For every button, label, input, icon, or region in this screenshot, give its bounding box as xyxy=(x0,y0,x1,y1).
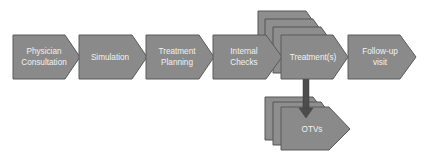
step-label: Simulation xyxy=(91,53,130,62)
step-label-line1: Internal xyxy=(230,47,257,56)
step-label-line2: Checks xyxy=(230,58,257,67)
step-simulation: Simulation xyxy=(79,35,147,79)
process-flow-diagram: Physician Consultation Simulation Treatm… xyxy=(0,0,428,166)
step-label-line2: Consultation xyxy=(21,58,67,67)
step-physician-consultation: Physician Consultation xyxy=(13,35,80,79)
step-follow-up-visit: Follow-up visit xyxy=(348,35,416,79)
step-label: Treatment(s) xyxy=(290,53,337,62)
step-label-line1: Physician xyxy=(26,47,61,56)
step-treatment-planning: Treatment Planning xyxy=(146,35,214,79)
chevron-shape xyxy=(13,35,80,79)
step-label-line1: Follow-up xyxy=(362,47,398,56)
chevron-shape xyxy=(348,35,416,79)
step-treatments: Treatment(s) xyxy=(281,35,348,79)
step-label-line1: Treatment xyxy=(158,47,196,56)
step-label: OTVs xyxy=(302,125,323,134)
step-label-line2: visit xyxy=(373,58,388,67)
chevron-shape xyxy=(146,35,214,79)
step-label-line2: Planning xyxy=(161,58,193,67)
